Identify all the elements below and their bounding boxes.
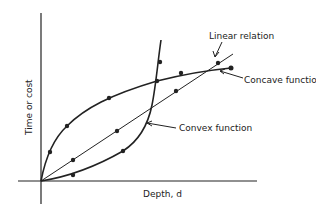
convex-curve [41, 40, 161, 181]
linear-relation-line [41, 54, 233, 181]
x-axis-label: Depth, d [143, 189, 182, 199]
linear-arrow [215, 42, 222, 57]
linear-relation-label: Linear relation [209, 31, 274, 41]
convex-function-label: Convex function [179, 123, 252, 133]
concave-arrow [220, 71, 243, 78]
y-axis-label: Time or cost [24, 79, 34, 136]
concave-function-label: Concave function [244, 75, 316, 85]
chart-canvas: Linear relation Concave function Convex … [0, 0, 316, 213]
